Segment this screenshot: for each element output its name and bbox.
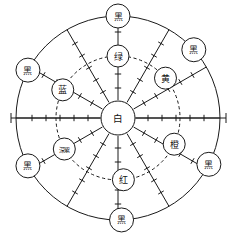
tick-mark-8-1	[93, 78, 99, 81]
tick-mark-11-1	[155, 93, 158, 99]
tick-mark-11-3	[179, 79, 182, 85]
tick-mark-4-2	[86, 167, 92, 170]
inner-node-2: 橙	[163, 133, 185, 155]
outer-node-label-3: 黑	[117, 215, 126, 225]
tick-mark-10-4	[158, 42, 164, 45]
outer-node-2: 黑	[197, 152, 221, 176]
tick-mark-4-3	[79, 179, 85, 182]
inner-node-label-1: 黄	[161, 73, 170, 84]
inner-node-3: 红	[112, 169, 134, 191]
outer-node-4: 黑	[16, 154, 40, 178]
inner-node-label-4: 深紫	[59, 146, 71, 154]
outer-node-0: 黑	[106, 4, 130, 28]
inner-node-1: 黄	[154, 67, 176, 89]
tick-mark-5-4	[42, 158, 45, 164]
inner-node-label-5: 蓝	[58, 84, 67, 95]
tick-mark-8-3	[79, 54, 85, 57]
outer-node-1: 黑	[182, 38, 206, 62]
color-wheel-figure: 黑黑黑黑黑黑 绿黄橙红深紫蓝 白	[0, 0, 236, 242]
outer-node-3: 黑	[110, 208, 134, 232]
tick-mark-5-0	[90, 130, 93, 136]
outer-node-label-0: 黑	[114, 12, 123, 22]
outer-node-label-2: 黑	[204, 160, 213, 170]
center-node-group: 白	[101, 101, 135, 135]
outer-node-label-4: 黑	[23, 161, 32, 171]
tick-mark-7-4	[42, 72, 45, 78]
tick-mark-10-0	[130, 90, 136, 93]
tick-mark-10-2	[144, 66, 150, 69]
tick-mark-2-1	[137, 155, 143, 158]
tick-mark-10-1	[137, 78, 143, 81]
tick-mark-1-4	[191, 158, 194, 164]
tick-mark-1-1	[155, 137, 158, 143]
outer-node-5: 黑	[16, 58, 40, 82]
tick-mark-7-1	[78, 93, 81, 99]
tick-mark-2-2	[144, 167, 150, 170]
color-wheel-svg: 黑黑黑黑黑黑 绿黄橙红深紫蓝 白	[0, 0, 236, 242]
inner-node-label-0: 绿	[114, 51, 123, 62]
tick-mark-11-4	[191, 72, 194, 78]
tick-mark-8-4	[72, 42, 78, 45]
tick-mark-10-3	[151, 54, 157, 57]
inner-node-5: 蓝	[52, 79, 74, 101]
tick-mark-5-1	[78, 137, 81, 143]
inner-node-label-2: 橙	[170, 139, 179, 150]
spoke-line-10	[127, 30, 169, 103]
tick-mark-7-0	[90, 100, 93, 106]
tick-mark-8-0	[100, 90, 106, 93]
tick-mark-4-1	[93, 155, 99, 158]
center-node-label: 白	[113, 113, 123, 124]
tick-mark-1-0	[142, 130, 145, 136]
tick-mark-2-0	[130, 142, 136, 145]
inner-node-label-3: 红	[119, 174, 128, 185]
inner-node-4: 深紫	[53, 138, 75, 160]
outer-node-label-5: 黑	[23, 66, 32, 76]
tick-mark-4-0	[100, 142, 106, 145]
tick-mark-11-0	[142, 100, 145, 106]
outer-node-label-1: 黑	[189, 45, 198, 55]
inner-node-0: 绿	[107, 45, 129, 67]
tick-mark-4-4	[72, 191, 78, 194]
tick-mark-8-2	[86, 66, 92, 69]
tick-mark-2-3	[151, 179, 157, 182]
tick-mark-2-4	[158, 191, 164, 194]
